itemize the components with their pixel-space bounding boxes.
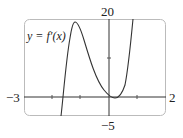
curve-label: y = f′(x) — [27, 30, 66, 42]
x-min-label: −3 — [6, 91, 20, 104]
x-max-label: 2 — [169, 91, 176, 104]
y-min-label: −5 — [101, 119, 115, 132]
derivative-curve — [61, 19, 133, 116]
plot — [0, 0, 183, 138]
y-max-label: 20 — [101, 5, 114, 18]
